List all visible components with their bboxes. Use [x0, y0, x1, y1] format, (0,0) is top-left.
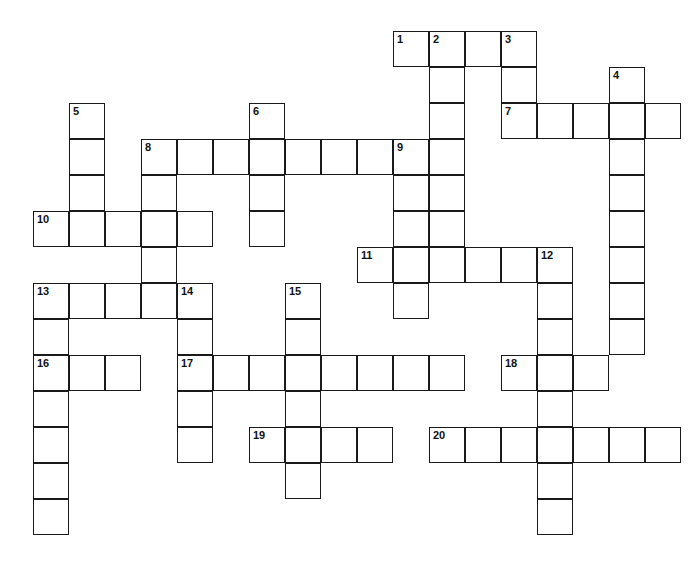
crossword-cell[interactable]: [609, 175, 645, 211]
crossword-cell[interactable]: [285, 319, 321, 355]
crossword-cell[interactable]: [501, 67, 537, 103]
crossword-cell[interactable]: [213, 355, 249, 391]
crossword-cell-numbered-12[interactable]: 12: [537, 247, 573, 283]
crossword-cell-numbered-3[interactable]: 3: [501, 31, 537, 67]
crossword-cell[interactable]: [249, 139, 285, 175]
crossword-cell-numbered-7[interactable]: 7: [501, 103, 537, 139]
crossword-cell[interactable]: [429, 211, 465, 247]
crossword-cell[interactable]: [429, 67, 465, 103]
crossword-cell-numbered-11[interactable]: 11: [357, 247, 393, 283]
crossword-cell[interactable]: [393, 283, 429, 319]
crossword-cell[interactable]: [537, 283, 573, 319]
crossword-cell-numbered-14[interactable]: 14: [177, 283, 213, 319]
crossword-cell[interactable]: [285, 139, 321, 175]
crossword-grid[interactable]: 1234756891011121314151617181920: [0, 0, 694, 561]
crossword-cell[interactable]: [609, 283, 645, 319]
crossword-cell[interactable]: [645, 103, 681, 139]
crossword-cell[interactable]: [501, 427, 537, 463]
crossword-cell[interactable]: [33, 319, 69, 355]
crossword-cell[interactable]: [609, 427, 645, 463]
crossword-cell[interactable]: [537, 463, 573, 499]
crossword-cell[interactable]: [249, 211, 285, 247]
crossword-cell-numbered-15[interactable]: 15: [285, 283, 321, 319]
crossword-cell[interactable]: [285, 391, 321, 427]
crossword-cell[interactable]: [141, 283, 177, 319]
crossword-cell-numbered-6[interactable]: 6: [249, 103, 285, 139]
crossword-cell[interactable]: [465, 427, 501, 463]
crossword-cell[interactable]: [177, 427, 213, 463]
crossword-cell[interactable]: [393, 211, 429, 247]
crossword-cell[interactable]: [537, 355, 573, 391]
crossword-cell[interactable]: [609, 103, 645, 139]
crossword-cell[interactable]: [357, 139, 393, 175]
crossword-cell-numbered-20[interactable]: 20: [429, 427, 465, 463]
crossword-cell[interactable]: [321, 355, 357, 391]
crossword-cell[interactable]: [537, 499, 573, 535]
crossword-cell[interactable]: [573, 103, 609, 139]
crossword-cell[interactable]: [285, 463, 321, 499]
crossword-cell[interactable]: [393, 175, 429, 211]
crossword-cell[interactable]: [645, 427, 681, 463]
crossword-cell[interactable]: [69, 139, 105, 175]
crossword-cell[interactable]: [105, 211, 141, 247]
crossword-cell[interactable]: [429, 355, 465, 391]
crossword-cell[interactable]: [573, 355, 609, 391]
crossword-cell[interactable]: [69, 283, 105, 319]
crossword-cell[interactable]: [33, 463, 69, 499]
crossword-cell[interactable]: [177, 139, 213, 175]
crossword-cell[interactable]: [177, 211, 213, 247]
crossword-cell[interactable]: [393, 247, 429, 283]
crossword-cell[interactable]: [429, 139, 465, 175]
crossword-cell-numbered-5[interactable]: 5: [69, 103, 105, 139]
crossword-cell[interactable]: [321, 427, 357, 463]
crossword-cell[interactable]: [285, 427, 321, 463]
crossword-cell[interactable]: [33, 391, 69, 427]
crossword-cell[interactable]: [609, 319, 645, 355]
crossword-cell[interactable]: [537, 103, 573, 139]
crossword-cell[interactable]: [177, 391, 213, 427]
crossword-cell[interactable]: [609, 247, 645, 283]
crossword-cell-numbered-4[interactable]: 4: [609, 67, 645, 103]
crossword-cell[interactable]: [501, 247, 537, 283]
crossword-cell[interactable]: [249, 175, 285, 211]
crossword-cell-numbered-19[interactable]: 19: [249, 427, 285, 463]
crossword-cell[interactable]: [69, 175, 105, 211]
crossword-cell[interactable]: [141, 211, 177, 247]
crossword-cell[interactable]: [105, 355, 141, 391]
crossword-cell[interactable]: [465, 247, 501, 283]
crossword-cell-numbered-9[interactable]: 9: [393, 139, 429, 175]
crossword-cell[interactable]: [537, 391, 573, 427]
crossword-cell[interactable]: [105, 283, 141, 319]
crossword-cell-numbered-10[interactable]: 10: [33, 211, 69, 247]
crossword-cell-numbered-13[interactable]: 13: [33, 283, 69, 319]
crossword-cell[interactable]: [537, 427, 573, 463]
crossword-cell[interactable]: [249, 355, 285, 391]
crossword-cell-numbered-2[interactable]: 2: [429, 31, 465, 67]
crossword-cell[interactable]: [33, 499, 69, 535]
crossword-cell[interactable]: [609, 211, 645, 247]
crossword-cell-numbered-1[interactable]: 1: [393, 31, 429, 67]
crossword-cell[interactable]: [429, 247, 465, 283]
crossword-cell[interactable]: [357, 427, 393, 463]
crossword-cell[interactable]: [429, 175, 465, 211]
crossword-cell[interactable]: [69, 211, 105, 247]
crossword-cell[interactable]: [429, 103, 465, 139]
crossword-cell[interactable]: [321, 139, 357, 175]
crossword-cell[interactable]: [537, 319, 573, 355]
crossword-cell[interactable]: [33, 427, 69, 463]
crossword-cell[interactable]: [69, 355, 105, 391]
crossword-cell[interactable]: [465, 31, 501, 67]
crossword-cell[interactable]: [141, 247, 177, 283]
crossword-cell[interactable]: [177, 319, 213, 355]
crossword-cell-numbered-16[interactable]: 16: [33, 355, 69, 391]
crossword-cell-numbered-8[interactable]: 8: [141, 139, 177, 175]
crossword-cell[interactable]: [213, 139, 249, 175]
crossword-cell[interactable]: [573, 427, 609, 463]
crossword-cell[interactable]: [141, 175, 177, 211]
crossword-cell[interactable]: [393, 355, 429, 391]
crossword-cell[interactable]: [285, 355, 321, 391]
crossword-cell-numbered-18[interactable]: 18: [501, 355, 537, 391]
crossword-cell-numbered-17[interactable]: 17: [177, 355, 213, 391]
crossword-cell[interactable]: [357, 355, 393, 391]
crossword-cell[interactable]: [609, 139, 645, 175]
